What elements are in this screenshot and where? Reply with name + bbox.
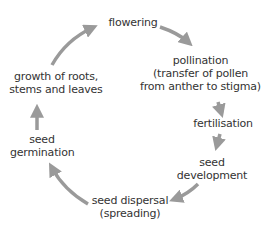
stage-label: growth of roots, [6, 70, 106, 83]
stage-seed-germination: seed germination [10, 133, 74, 159]
arrow-flowering-to-pollination [160, 27, 188, 42]
arrow-seed-development-to-seed-dispersal [175, 184, 198, 199]
stage-label: seed [10, 133, 74, 146]
stage-label: flowering [100, 16, 166, 29]
stage-label-detail: from anther to stigma) [138, 80, 263, 93]
arrow-fertilisation-to-seed-development [217, 134, 220, 145]
stage-label: stems and leaves [6, 83, 106, 96]
stage-seed-dispersal: seed dispersal (spreading) [88, 194, 172, 220]
stage-label-detail: (transfer of pollen [138, 67, 263, 80]
arrow-growth-to-flowering [52, 28, 92, 65]
stage-label: pollination [138, 54, 263, 67]
plant-life-cycle-diagram: flowering pollination (transfer of polle… [0, 0, 263, 230]
stage-growth: growth of roots, stems and leaves [6, 70, 106, 96]
stage-label: germination [10, 146, 74, 159]
stage-label: fertilisation [190, 117, 256, 130]
arrow-pollination-to-fertilisation [218, 102, 221, 112]
stage-label: development [174, 169, 250, 182]
stage-fertilisation: fertilisation [190, 117, 256, 130]
stage-pollination: pollination (transfer of pollen from ant… [138, 54, 263, 93]
stage-label-detail: (spreading) [88, 207, 172, 220]
stage-label: seed dispersal [88, 194, 172, 207]
stage-flowering: flowering [100, 16, 166, 29]
stage-label: seed [174, 156, 250, 169]
stage-seed-development: seed development [174, 156, 250, 182]
arrow-seed-dispersal-to-germination [52, 168, 88, 204]
